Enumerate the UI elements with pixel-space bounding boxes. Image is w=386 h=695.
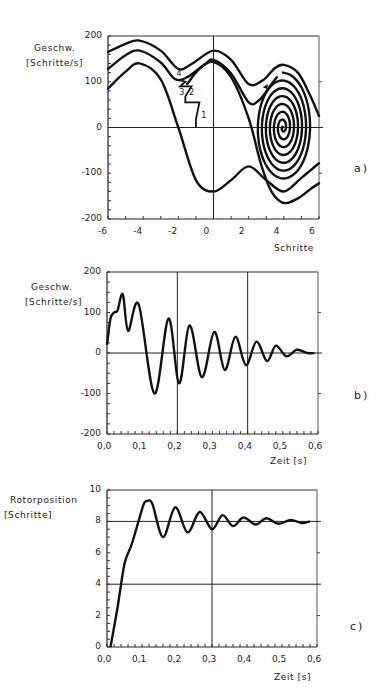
chart-a-ytick: -200 <box>82 213 102 223</box>
chart-b-ylabel-line1: Geschw. <box>31 282 72 292</box>
spiral-curve <box>258 73 310 179</box>
chart-a-xtick: -6 <box>98 226 107 236</box>
chart-c-xtick: 0,5 <box>272 654 286 664</box>
chart-a-ytick: 0 <box>96 122 102 132</box>
chart-b-xtick: 0,0 <box>97 441 111 451</box>
chart-b-xtick: 0,3 <box>203 441 217 451</box>
chart-a-panel-label: a) <box>354 162 369 175</box>
velocity-curve <box>107 294 314 394</box>
chart-a-xlabel: Schritte <box>274 243 314 253</box>
chart-a-ylabel-line1: Geschw. <box>34 43 75 53</box>
chart-b-ytick: -100 <box>81 388 101 398</box>
chart-b-xtick: 0,4 <box>238 441 252 451</box>
chart-a-ylabel-line2: [Schritte/s] <box>26 58 83 68</box>
chart-c-xtick: 0,4 <box>237 654 251 664</box>
chart-c-xtick: 0,6 <box>307 654 321 664</box>
chart-b-xtick: 0,6 <box>308 441 322 451</box>
chart-b-xtick: 0,5 <box>273 441 287 451</box>
chart-b-ylabel-line2: [Schritte/s] <box>25 297 82 307</box>
chart-c-xlabel: Zeit [s] <box>274 672 311 682</box>
chart-c-ytick: 0 <box>95 641 101 651</box>
step-path <box>177 79 200 127</box>
chart-c-ytick: 8 <box>95 515 101 525</box>
chart-c-xtick: 0,0 <box>97 654 111 664</box>
chart-a-ytick: 200 <box>85 30 102 40</box>
chart-b-xlabel: Zeit [s] <box>270 456 307 466</box>
chart-b-ytick: 100 <box>84 307 101 317</box>
chart-a-xtick: 6 <box>309 226 315 236</box>
chart-b <box>107 272 322 434</box>
chart-c <box>107 490 321 647</box>
chart-c-xtick: 0,3 <box>202 654 216 664</box>
arrow-icon <box>263 84 268 89</box>
chart-a-xtick: 4 <box>274 226 280 236</box>
chart-c-ylabel-line2: [Schritte] <box>4 510 52 520</box>
chart-c-ytick: 6 <box>95 547 101 557</box>
position-curve <box>111 500 311 647</box>
chart-c-ylabel-line1: Rotorposition <box>10 495 78 505</box>
step-annotation: 4 <box>177 69 182 78</box>
chart-c-ytick: 2 <box>95 610 101 620</box>
chart-a-ytick: -100 <box>82 167 102 177</box>
step-annotation: 2 <box>189 88 194 97</box>
chart-b-ytick: -200 <box>81 428 101 438</box>
step-annotation: 3 <box>179 88 184 97</box>
chart-a-xtick: 0 <box>204 226 210 236</box>
chart-a-ytick: 100 <box>85 76 102 86</box>
chart-b-xtick: 0,1 <box>132 441 146 451</box>
chart-b-xtick: 0,2 <box>167 441 181 451</box>
chart-a-xtick: -4 <box>133 226 142 236</box>
chart-b-ytick: 200 <box>84 266 101 276</box>
chart-c-ytick: 10 <box>90 484 101 494</box>
figure-canvas: 1234 <box>0 0 386 695</box>
chart-b-ytick: 0 <box>95 347 101 357</box>
chart-a-xtick: -2 <box>168 226 177 236</box>
chart-c-xtick: 0,2 <box>167 654 181 664</box>
chart-c-xtick: 0,1 <box>132 654 146 664</box>
chart-a: 1234 <box>108 36 323 219</box>
chart-c-panel-label: c) <box>350 620 364 633</box>
step-annotation: 1 <box>201 111 206 120</box>
chart-a-xtick: 2 <box>239 226 245 236</box>
chart-b-panel-label: b) <box>354 389 369 402</box>
chart-c-ytick: 4 <box>95 578 101 588</box>
